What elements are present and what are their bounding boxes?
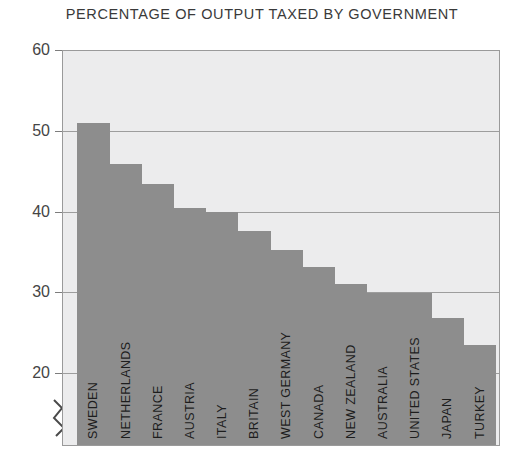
y-axis-label-60: 60 — [0, 41, 50, 59]
plot-area: SWEDENNETHERLANDSFRANCEAUSTRIAITALYBRITA… — [62, 50, 500, 446]
bar-netherlands[interactable]: NETHERLANDS — [109, 164, 142, 445]
bar-canada[interactable]: CANADA — [302, 267, 335, 445]
bar-label-britain: BRITAIN — [247, 388, 261, 439]
bar-turkey[interactable]: TURKEY — [463, 345, 496, 445]
bar-label-canada: CANADA — [312, 385, 326, 440]
chart-figure: PERCENTAGE OF OUTPUT TAXED BY GOVERNMENT… — [0, 0, 524, 463]
y-axis-label-20: 20 — [0, 364, 50, 382]
bar-label-united-states: UNITED STATES — [408, 337, 422, 439]
bar-britain[interactable]: BRITAIN — [238, 231, 271, 445]
y-axis-label-40: 40 — [0, 203, 50, 221]
bar-label-turkey: TURKEY — [473, 386, 487, 439]
bar-west-germany[interactable]: WEST GERMANY — [270, 250, 303, 445]
bar-label-japan: JAPAN — [440, 398, 454, 439]
bar-label-france: FRANCE — [151, 385, 165, 439]
bar-label-australia: AUSTRALIA — [376, 366, 390, 439]
bar-austria[interactable]: AUSTRIA — [174, 208, 207, 445]
bar-sweden[interactable]: SWEDEN — [77, 123, 110, 445]
bar-japan[interactable]: JAPAN — [431, 318, 464, 445]
bar-label-italy: ITALY — [215, 404, 229, 439]
chart-title: PERCENTAGE OF OUTPUT TAXED BY GOVERNMENT — [0, 6, 524, 22]
y-axis-label-30: 30 — [0, 283, 50, 301]
bar-label-new-zealand: NEW ZEALAND — [344, 344, 358, 439]
bar-france[interactable]: FRANCE — [141, 184, 174, 445]
gridline-50 — [63, 131, 499, 132]
bar-australia[interactable]: AUSTRALIA — [367, 293, 400, 446]
bar-label-sweden: SWEDEN — [86, 382, 100, 439]
bar-new-zealand[interactable]: NEW ZEALAND — [334, 284, 367, 445]
bar-label-netherlands: NETHERLANDS — [119, 342, 133, 439]
bar-label-west-germany: WEST GERMANY — [279, 332, 293, 439]
bar-italy[interactable]: ITALY — [206, 212, 239, 445]
y-axis-label-50: 50 — [0, 122, 50, 140]
bar-united-states[interactable]: UNITED STATES — [399, 293, 432, 446]
bar-label-austria: AUSTRIA — [183, 382, 197, 439]
